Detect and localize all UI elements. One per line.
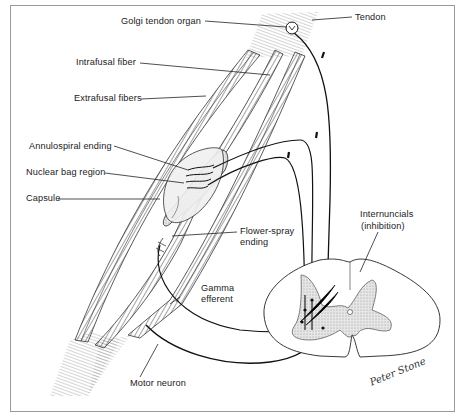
nerve-marker	[288, 152, 289, 158]
leader-motor	[140, 344, 158, 377]
label-nuclear-bag-region: Nuclear bag region	[26, 167, 105, 178]
nerve-marker	[322, 52, 324, 58]
diagram-figure: Golgi tendon organ Tendon Intrafusal fib…	[0, 0, 467, 417]
label-internuncials-line2: (inhibition)	[361, 221, 405, 232]
label-gamma-line2: efferent	[201, 294, 233, 305]
label-intrafusal-fiber: Intrafusal fiber	[76, 57, 136, 68]
leader-tendon	[312, 17, 352, 20]
label-extrafusal-fibers: Extrafusal fibers	[74, 93, 142, 104]
label-tendon: Tendon	[355, 12, 386, 23]
spinal-cord-cross-section	[264, 259, 440, 357]
nerve-marker	[316, 132, 317, 138]
golgi-tendon-organ	[286, 22, 298, 34]
tendon-top	[246, 12, 318, 58]
label-internuncials-line1: Internuncials	[360, 209, 413, 220]
label-capsule: Capsule	[26, 193, 60, 204]
tendon-bottom	[50, 332, 130, 396]
label-gamma-line1: Gamma	[201, 283, 234, 294]
label-golgi-tendon-organ: Golgi tendon organ	[121, 16, 201, 27]
leader-extrafusal	[141, 96, 206, 99]
label-flower-spray-line1: Flower-spray	[240, 226, 294, 237]
label-flower-spray-line2: ending	[240, 237, 268, 248]
label-motor-neuron: Motor neuron	[130, 378, 186, 389]
label-annulospiral-ending: Annulospiral ending	[29, 141, 112, 152]
